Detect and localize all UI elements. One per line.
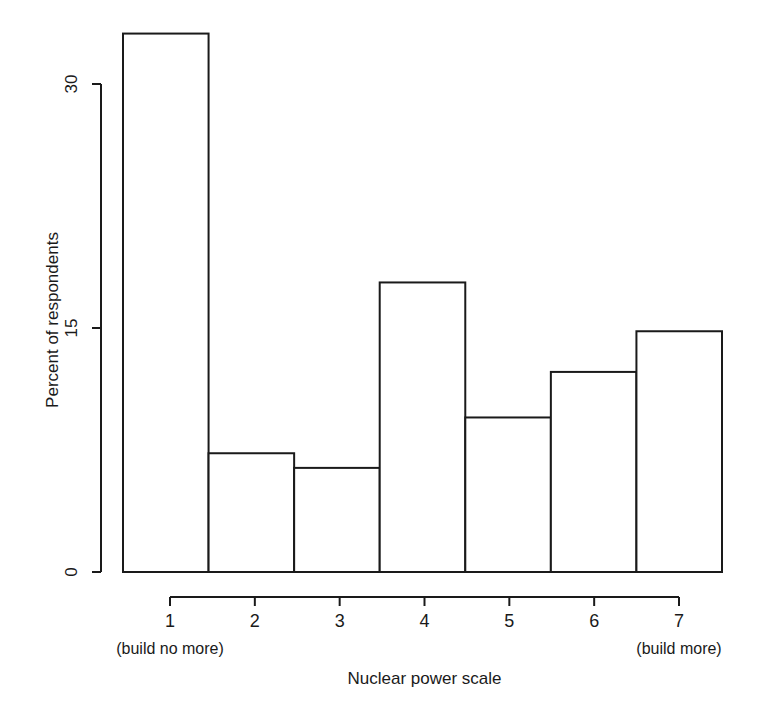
bar (465, 417, 551, 572)
y-tick-label-0: 0 (61, 555, 83, 589)
x-axis-title: Nuclear power scale (347, 669, 501, 689)
x-tick-label-5: 5 (504, 611, 514, 632)
x-tick-label-1: 1 (165, 611, 175, 632)
y-tick-label-30: 30 (61, 67, 83, 101)
x-tick-label-2: 2 (250, 611, 260, 632)
bar (380, 282, 466, 572)
bar (123, 34, 209, 572)
bar (209, 453, 295, 572)
y-axis (92, 84, 101, 572)
bar (294, 468, 380, 572)
bar (551, 372, 637, 572)
x-tick-label-4: 4 (419, 611, 429, 632)
x-axis-endcap-left: (build no more) (116, 640, 224, 658)
x-axis-endcap-right: (build more) (636, 640, 721, 658)
x-tick-label-7: 7 (674, 611, 684, 632)
x-tick-label-3: 3 (335, 611, 345, 632)
chart-figure: Percent of respondents 0 15 30 1 2 3 4 5… (0, 0, 766, 710)
bar-chart-canvas (0, 0, 766, 710)
y-tick-label-15: 15 (61, 311, 83, 345)
x-axis (170, 597, 679, 606)
bar-series (123, 34, 722, 572)
x-tick-label-6: 6 (589, 611, 599, 632)
bar (636, 331, 722, 572)
